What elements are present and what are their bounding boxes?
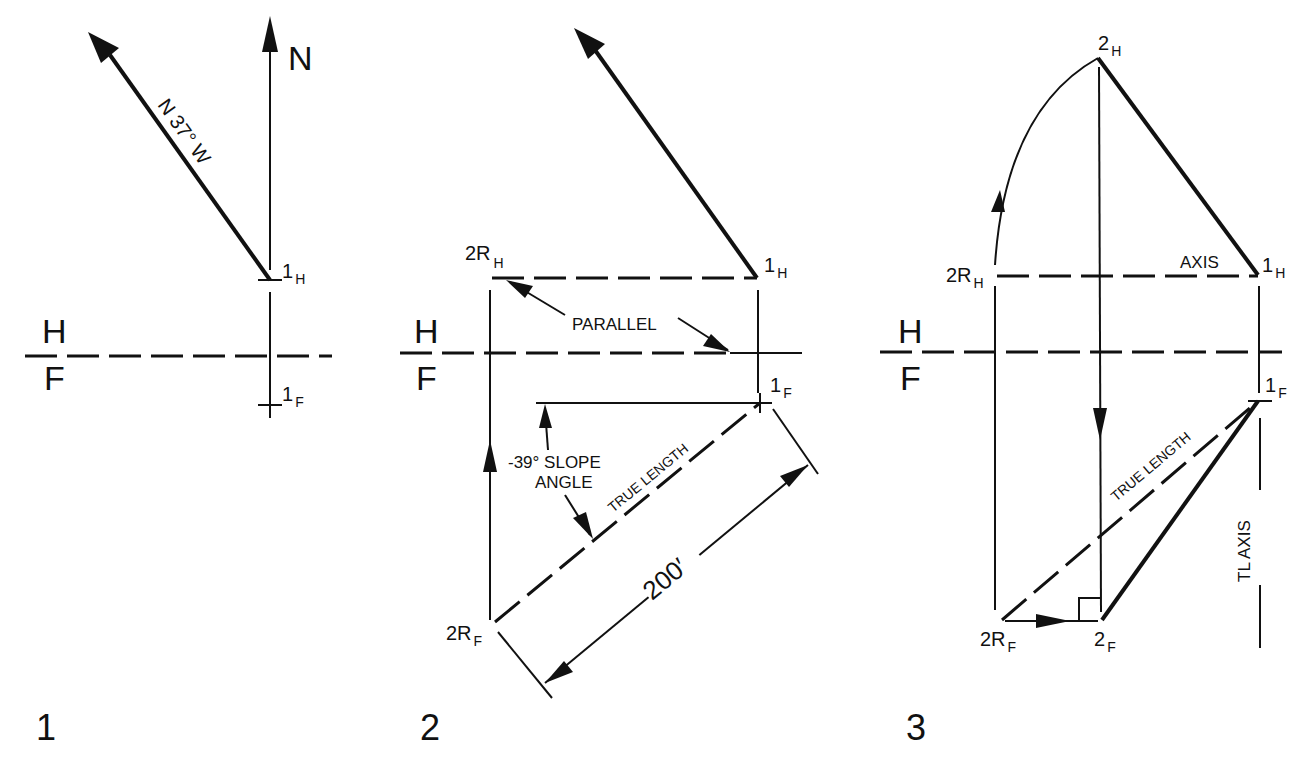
revolution-arrowhead-icon bbox=[1036, 614, 1070, 628]
point-1f-label: 1F bbox=[770, 374, 792, 401]
true-length-line bbox=[1002, 401, 1258, 620]
north-arrowhead-icon bbox=[262, 16, 278, 52]
projector-up-arrowhead-icon bbox=[483, 440, 497, 472]
horizontal-view-line bbox=[1098, 58, 1258, 275]
right-angle-mark bbox=[1079, 598, 1100, 621]
parallel-arrowhead-left-icon bbox=[506, 280, 533, 298]
panel-number-2: 2 bbox=[420, 707, 440, 748]
plane-f-label: F bbox=[416, 359, 437, 397]
bearing-line bbox=[110, 55, 270, 280]
point-1f-label: 1F bbox=[282, 383, 304, 410]
slope-arrowhead-down-icon bbox=[573, 512, 593, 539]
extension-line-left bbox=[498, 632, 552, 698]
plane-h-label: H bbox=[898, 312, 923, 350]
panel-number-1: 1 bbox=[36, 707, 56, 748]
panel-number-3: 3 bbox=[906, 707, 926, 748]
point-2rh-label: 2RH bbox=[946, 264, 984, 291]
panel-3: 2H AXIS 2RH 1H H F 1F TRUE LENGTH bbox=[880, 32, 1287, 748]
point-2rh-label: 2RH bbox=[465, 242, 504, 271]
panel-2: 2RH 1H H F PARALLEL 1F TRUE LENGTH -39° … bbox=[400, 28, 818, 748]
slope-label-line1: -39° SLOPE bbox=[508, 453, 601, 472]
descriptive-geometry-figure: N N 37° W 1H 1F H F 1 2RH 1H H F bbox=[0, 0, 1304, 764]
point-2h-label: 2H bbox=[1098, 32, 1121, 59]
parallel-label: PARALLEL bbox=[572, 315, 657, 334]
tl-axis-label: TL AXIS bbox=[1235, 520, 1254, 582]
tl-axis-gap bbox=[1255, 490, 1265, 585]
revolution-arc bbox=[995, 58, 1098, 265]
point-1f-label: 1F bbox=[1265, 374, 1287, 401]
true-length-label: TRUE LENGTH bbox=[605, 440, 691, 515]
plane-h-label: H bbox=[414, 312, 439, 350]
panel-1: N N 37° W 1H 1F H F 1 bbox=[25, 16, 332, 748]
plane-h-label: H bbox=[42, 312, 67, 350]
plane-f-label: F bbox=[44, 359, 65, 397]
point-2rf-label: 2RF bbox=[446, 622, 482, 649]
bearing-line bbox=[595, 50, 757, 278]
projector-down-arrowhead-icon bbox=[1093, 408, 1107, 440]
true-length-line bbox=[495, 403, 760, 622]
slope-arrowhead-up-icon bbox=[539, 404, 552, 428]
axis-label: AXIS bbox=[1180, 253, 1219, 272]
north-label: N bbox=[288, 39, 313, 77]
point-1h-label: 1H bbox=[764, 254, 787, 281]
point-1h-label: 1H bbox=[1262, 254, 1285, 281]
extension-line-right bbox=[773, 409, 818, 474]
point-1h-label: 1H bbox=[282, 260, 305, 287]
point-2f-label: 2F bbox=[1094, 628, 1116, 655]
point-2rf-label: 2RF bbox=[980, 628, 1016, 655]
projector-2 bbox=[1099, 67, 1101, 612]
slope-label-line2: ANGLE bbox=[535, 473, 593, 492]
plane-f-label: F bbox=[900, 359, 921, 397]
